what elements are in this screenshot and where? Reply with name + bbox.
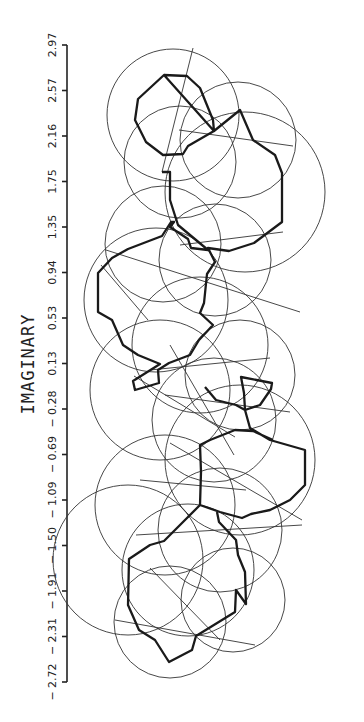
chord-line (170, 443, 302, 520)
chord-line (179, 130, 293, 146)
tick-label: 0.53 (46, 306, 59, 331)
chord-line (150, 568, 220, 640)
tick-label: − 0.69 (46, 436, 59, 473)
tick-label: 2.57 (46, 78, 59, 103)
tick-label: − 1.50 (46, 527, 59, 564)
tick-label: 2.97 (46, 33, 59, 58)
chord-line (140, 480, 246, 490)
tick-label: 2.16 (46, 124, 59, 149)
chord-line (101, 265, 148, 320)
chart-plot: 2.972.572.161.751.350.940.530.13− 0.28− … (0, 0, 364, 722)
imaginary-axis: 2.972.572.161.751.350.940.530.13− 0.28− … (46, 33, 67, 701)
tick-label: − 0.28 (46, 390, 59, 427)
circle (132, 277, 268, 413)
tick-label: − 2.72 (46, 663, 59, 700)
tick-label: − 2.31 (46, 618, 59, 655)
axis-title: IMAGINARY (18, 313, 38, 414)
boundary-polyline (128, 505, 246, 662)
tick-label: 0.94 (46, 260, 59, 285)
boundary-polyline (98, 75, 282, 390)
circle (122, 504, 254, 636)
circle (105, 186, 221, 302)
tick-label: − 1.91 (46, 572, 59, 609)
tick-label: 0.13 (46, 351, 59, 376)
boundary-polyline (200, 377, 305, 518)
circle (107, 49, 239, 181)
tick-label: 1.75 (46, 169, 59, 194)
tick-label: 1.35 (46, 215, 59, 240)
chord-line (136, 525, 302, 535)
circle-set (53, 49, 325, 678)
tick-label: − 1.09 (46, 481, 59, 518)
